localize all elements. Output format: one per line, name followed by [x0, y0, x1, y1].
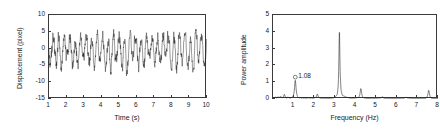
x-tick-mark — [101, 95, 102, 98]
x-tick-mark — [66, 95, 67, 98]
x-tick-label: 4 — [348, 101, 362, 108]
x-tick-mark — [355, 95, 356, 98]
y-tick-mark — [272, 98, 275, 99]
y-tick-mark — [48, 98, 51, 99]
y-tick-label: -10 — [25, 77, 45, 84]
y-tick-label: 5 — [249, 10, 269, 17]
x-tick-mark — [171, 95, 172, 98]
x-tick-mark — [416, 95, 417, 98]
y-tick-mark — [272, 48, 275, 49]
x-tick-mark — [48, 95, 49, 98]
x-tick-label: 5 — [368, 101, 382, 108]
x-tick-label: 8 — [430, 101, 440, 108]
panel-time-series: Displacement (pixel) 1050-5-10-15 123456… — [0, 0, 220, 135]
x-tick-mark — [375, 95, 376, 98]
x-tick-label: 10 — [199, 101, 213, 108]
y-tick-mark — [272, 14, 275, 15]
x-tick-label: 3 — [76, 101, 90, 108]
y-tick-mark — [48, 64, 51, 65]
x-tick-label: 1 — [286, 101, 300, 108]
y-tick-label: -15 — [25, 94, 45, 101]
x-axis-label-frequency: Frequency (Hz) — [272, 114, 437, 121]
x-tick-mark — [396, 95, 397, 98]
x-tick-mark — [136, 95, 137, 98]
x-tick-mark — [118, 95, 119, 98]
x-tick-mark — [313, 95, 314, 98]
x-tick-label: 5 — [111, 101, 125, 108]
x-tick-label: 1 — [41, 101, 55, 108]
x-tick-label: 7 — [146, 101, 160, 108]
x-tick-label: 2 — [306, 101, 320, 108]
y-tick-label: 4 — [249, 27, 269, 34]
y-tick-label: -5 — [25, 60, 45, 67]
x-tick-label: 7 — [409, 101, 423, 108]
x-tick-label: 3 — [327, 101, 341, 108]
x-tick-mark — [206, 95, 207, 98]
y-tick-mark — [272, 81, 275, 82]
y-tick-mark — [272, 64, 275, 65]
y-tick-mark — [272, 31, 275, 32]
x-tick-mark — [153, 95, 154, 98]
x-tick-label: 6 — [389, 101, 403, 108]
y-tick-mark — [48, 14, 51, 15]
y-tick-mark — [48, 48, 51, 49]
x-tick-label: 9 — [181, 101, 195, 108]
y-tick-label: 2 — [249, 60, 269, 67]
x-tick-mark — [188, 95, 189, 98]
y-tick-label: 1 — [249, 77, 269, 84]
x-axis-label-time: Time (s) — [48, 114, 206, 121]
x-tick-label: 6 — [129, 101, 143, 108]
x-tick-mark — [293, 95, 294, 98]
x-tick-label: 2 — [59, 101, 73, 108]
power-spectrum-plot-area — [272, 14, 437, 98]
figure-container: Displacement (pixel) 1050-5-10-15 123456… — [0, 0, 440, 135]
time-series-curve — [49, 15, 207, 99]
power-spectrum-curve — [273, 15, 438, 99]
y-tick-label: 0 — [25, 44, 45, 51]
y-tick-label: 10 — [25, 10, 45, 17]
x-tick-mark — [334, 95, 335, 98]
time-series-plot-area — [48, 14, 206, 98]
x-tick-mark — [83, 95, 84, 98]
x-tick-label: 4 — [94, 101, 108, 108]
y-axis-label-displacement: Displacement (pixel) — [16, 28, 23, 89]
y-axis-label-power-amplitude: Power amplitude — [240, 34, 247, 85]
x-tick-label: 8 — [164, 101, 178, 108]
peak-annotation-label: 1.08 — [298, 72, 311, 79]
y-tick-label: 3 — [249, 44, 269, 51]
y-tick-mark — [48, 31, 51, 32]
y-tick-label: 5 — [25, 27, 45, 34]
y-tick-mark — [48, 81, 51, 82]
panel-power-spectrum: Power amplitude 012345 12345678 1.08 Fre… — [220, 0, 440, 135]
x-tick-mark — [437, 95, 438, 98]
y-tick-label: 0 — [249, 94, 269, 101]
